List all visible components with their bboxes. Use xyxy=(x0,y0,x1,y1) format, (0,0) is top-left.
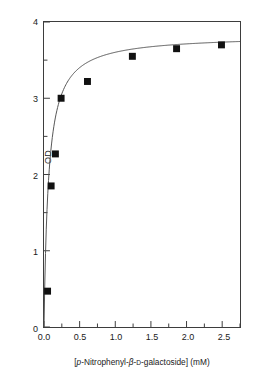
data-point-marker xyxy=(173,45,180,52)
data-point-marker xyxy=(129,53,136,60)
data-point-marker xyxy=(44,288,51,295)
x-tick-label: 2.0 xyxy=(182,333,195,342)
figure-panel: OD 01234 0.00.51.01.52.02.5 [p-Nitrophen… xyxy=(0,0,258,385)
x-axis-title-nitrophenyl: -Nitrophenyl- xyxy=(81,357,129,367)
y-tick-label: 4 xyxy=(33,18,38,27)
data-point-marker xyxy=(58,95,65,102)
x-tick-label: 1.5 xyxy=(146,333,159,342)
x-axis-title-galactoside: -galactoside] xyxy=(141,357,188,367)
y-tick-label: 3 xyxy=(33,94,38,103)
x-axis-title: [p-Nitrophenyl-β-D-galactoside] (mM) xyxy=(43,358,241,367)
data-point-marker xyxy=(48,182,55,189)
tick-marks xyxy=(44,22,240,327)
fit-curve-line xyxy=(44,42,240,327)
x-tick-label: 0.0 xyxy=(38,333,51,342)
data-point-markers xyxy=(44,41,225,294)
x-tick-label: 1.0 xyxy=(110,333,123,342)
data-point-marker xyxy=(218,41,225,48)
data-point-marker xyxy=(52,150,59,157)
y-tick-label: 1 xyxy=(33,248,38,257)
data-point-marker xyxy=(84,78,91,85)
x-tick-label: 0.5 xyxy=(74,333,87,342)
y-tick-label: 2 xyxy=(33,171,38,180)
x-axis-title-units: (mM) xyxy=(188,357,210,367)
plot-frame: OD 01234 0.00.51.01.52.02.5 xyxy=(43,21,241,328)
plot-data-layer xyxy=(44,22,240,327)
x-tick-label: 2.5 xyxy=(218,333,231,342)
